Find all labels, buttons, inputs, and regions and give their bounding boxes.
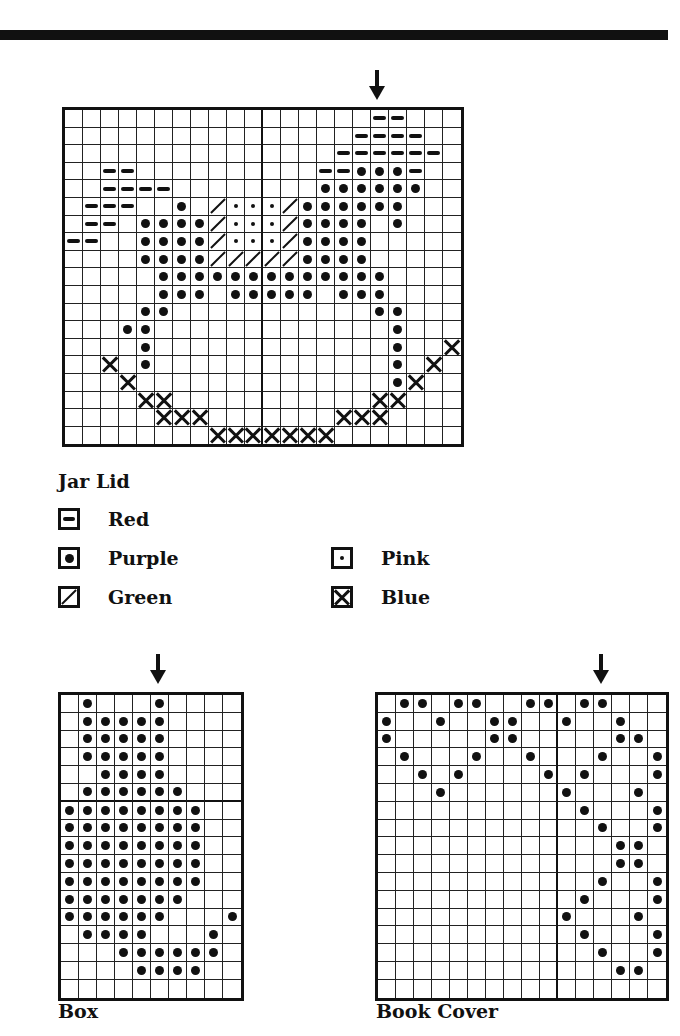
grid-cell <box>83 427 101 445</box>
grid-cell <box>371 251 389 269</box>
grid-cell <box>414 748 432 766</box>
grid-cell <box>263 409 281 427</box>
grid-cell <box>335 110 353 128</box>
purple-stitch-cell <box>414 695 432 713</box>
purple-stitch-cell <box>61 837 79 855</box>
purple-stitch-cell <box>115 926 133 944</box>
grid-cell <box>432 962 450 980</box>
grid-cell <box>223 944 241 962</box>
grid-cell <box>648 909 666 927</box>
grid-cell <box>468 980 486 998</box>
grid-cell <box>425 409 443 427</box>
grid-cell <box>371 339 389 357</box>
grid-cell <box>97 962 115 980</box>
grid-cell <box>263 356 281 374</box>
purple-stitch-cell <box>173 251 191 269</box>
grid-cell <box>594 784 612 802</box>
purple-stitch-cell <box>79 784 97 802</box>
purple-stitch-cell <box>79 695 97 713</box>
purple-stitch-cell <box>522 748 540 766</box>
grid-cell <box>558 731 576 749</box>
purple-stitch-cell <box>61 802 79 820</box>
grid-cell <box>223 731 241 749</box>
grid-cell <box>612 766 630 784</box>
grid-cell <box>173 321 191 339</box>
grid-cell <box>450 980 468 998</box>
grid-cell <box>432 731 450 749</box>
grid-cell <box>378 855 396 873</box>
purple-stitch-cell <box>79 891 97 909</box>
grid-cell <box>169 766 187 784</box>
purple-stitch-cell <box>133 962 151 980</box>
grid-cell <box>504 695 522 713</box>
grid-cell <box>115 980 133 998</box>
purple-stitch-cell <box>97 748 115 766</box>
grid-cell <box>486 962 504 980</box>
purple-stitch-cell <box>173 233 191 251</box>
grid-cell <box>119 427 137 445</box>
purple-stitch-cell <box>504 713 522 731</box>
grid-cell <box>205 766 223 784</box>
grid-cell <box>540 962 558 980</box>
purple-stitch-cell <box>396 695 414 713</box>
grid-cell <box>432 926 450 944</box>
grid-cell <box>407 286 425 304</box>
blue-stitch-cell <box>371 409 389 427</box>
grid-cell <box>522 784 540 802</box>
grid-cell <box>522 980 540 998</box>
grid-cell <box>558 837 576 855</box>
grid-cell <box>101 304 119 322</box>
grid-cell <box>79 962 97 980</box>
grid-cell <box>205 820 223 838</box>
grid-cell <box>169 748 187 766</box>
grid-cell <box>205 713 223 731</box>
grid-cell <box>187 784 205 802</box>
purple-stitch-cell <box>558 909 576 927</box>
purple-stitch-cell <box>317 268 335 286</box>
grid-cell <box>173 128 191 146</box>
grid-cell <box>281 374 299 392</box>
green-stitch-cell <box>209 216 227 234</box>
grid-cell <box>79 766 97 784</box>
purple-stitch-cell <box>371 304 389 322</box>
grid-cell <box>576 837 594 855</box>
purple-stitch-cell <box>630 731 648 749</box>
grid-cell <box>169 731 187 749</box>
grid-cell <box>468 713 486 731</box>
purple-stitch-cell <box>371 198 389 216</box>
grid-cell <box>432 766 450 784</box>
grid-cell <box>299 374 317 392</box>
grid-cell <box>540 713 558 731</box>
grid-cell <box>378 944 396 962</box>
purple-stitch-cell <box>133 820 151 838</box>
grid-cell <box>65 145 83 163</box>
grid-cell <box>576 909 594 927</box>
grid-cell <box>425 233 443 251</box>
grid-cell <box>119 110 137 128</box>
red-stitch-cell <box>389 110 407 128</box>
grid-cell <box>169 980 187 998</box>
purple-stitch-cell <box>79 837 97 855</box>
grid-cell <box>504 837 522 855</box>
grid-cell <box>281 145 299 163</box>
grid-cell <box>173 304 191 322</box>
grid-cell <box>191 392 209 410</box>
purple-stitch-cell <box>115 731 133 749</box>
grid-cell <box>173 392 191 410</box>
grid-cell <box>223 962 241 980</box>
legend-item-pink: Pink <box>331 547 429 569</box>
red-stitch-cell <box>83 198 101 216</box>
grid-cell <box>576 731 594 749</box>
purple-stitch-cell <box>151 748 169 766</box>
grid-cell <box>317 286 335 304</box>
grid-cell <box>83 356 101 374</box>
grid-cell <box>191 110 209 128</box>
purple-stitch-cell <box>173 286 191 304</box>
grid-cell <box>227 163 245 181</box>
purple-stitch-cell <box>335 251 353 269</box>
purple-symbol-icon <box>58 547 80 569</box>
grid-cell <box>468 820 486 838</box>
pink-stitch-cell <box>263 233 281 251</box>
grid-cell <box>378 837 396 855</box>
grid-cell <box>223 802 241 820</box>
